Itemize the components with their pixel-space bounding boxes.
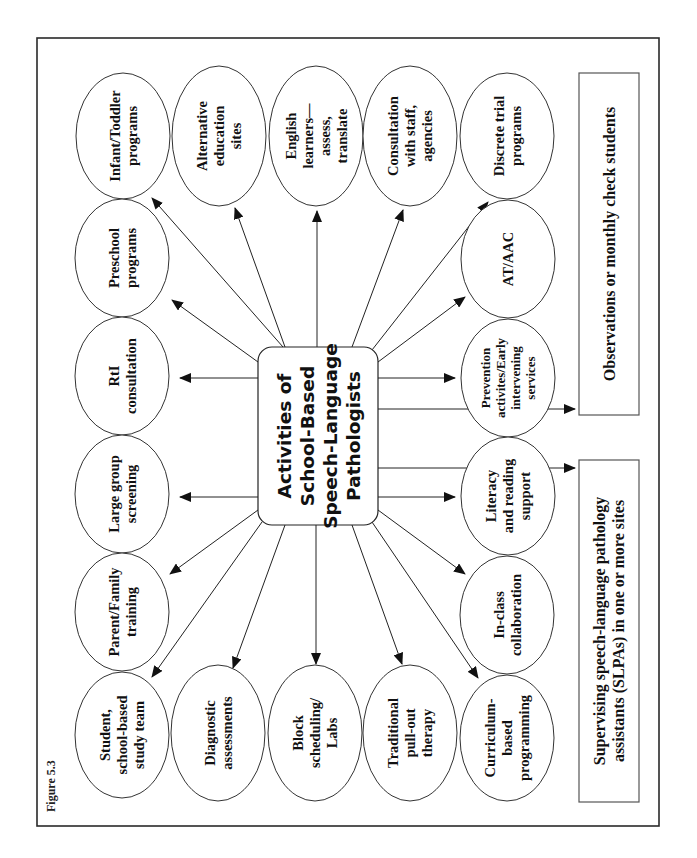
node-text: study team <box>131 701 147 769</box>
node-text: English <box>283 113 299 160</box>
node-alternative-education: Alternative education sites <box>172 66 266 206</box>
arrow-at-aac <box>378 297 465 362</box>
node-text: activites/Early <box>493 337 508 418</box>
center-line-3: Speech-Language <box>320 343 341 529</box>
node-text: Traditional <box>385 698 401 768</box>
node-text: services <box>523 356 538 399</box>
observations-box: Observations or monthly check students <box>579 73 639 415</box>
node-text: assessments <box>219 696 235 770</box>
node-text: based <box>499 720 515 755</box>
node-diagnostic: Diagnostic assessments <box>171 665 265 801</box>
node-preschool: Preschool programs <box>75 199 169 317</box>
center-line-4: Pathologists <box>343 371 364 501</box>
node-text: Curriculum- <box>482 698 498 777</box>
figure-label: Figure 5.3 <box>44 760 58 812</box>
node-text: scheduling/ <box>307 697 323 768</box>
arrow-in-class <box>378 510 465 574</box>
node-text: and reading <box>500 458 516 533</box>
node-text: collaboration <box>508 574 524 656</box>
node-block-scheduling: Block scheduling/ Labs <box>268 665 362 801</box>
supervising-text-line-1: Supervising speech-language pathology <box>591 497 609 765</box>
node-consultation-staff: Consultation with staff, agencies <box>363 66 457 206</box>
node-english-learners: English learners— assess, translate <box>269 66 363 206</box>
node-text: programming <box>516 694 532 781</box>
node-rti: RtI consultation <box>75 317 169 435</box>
node-text: Labs <box>324 717 340 748</box>
node-text: RtI <box>106 365 122 386</box>
node-parent-family: Parent/Family training <box>75 553 169 671</box>
node-text: Student, <box>97 709 113 761</box>
node-text: agencies <box>419 110 435 162</box>
node-text: Large group <box>106 455 122 532</box>
node-text: Consultation <box>385 96 401 176</box>
node-text: Block <box>290 714 306 750</box>
node-text: Discrete trial <box>491 96 507 177</box>
node-text: learners— <box>300 103 316 169</box>
node-text: training <box>123 586 139 637</box>
arrow-diagnostic <box>233 525 285 668</box>
node-text: therapy <box>419 708 435 757</box>
node-at-aac: AT/AAC <box>461 200 555 318</box>
observations-text: Observations or monthly check students <box>601 107 619 381</box>
arrow-traditional-pullout <box>352 525 402 664</box>
node-large-group: Large group screening <box>75 435 169 553</box>
node-text: assess, <box>317 116 333 156</box>
arrow-alternative-education <box>235 208 285 347</box>
node-prevention: Prevention activites/Early intervening s… <box>461 319 555 437</box>
node-traditional-pullout: Traditional pull-out therapy <box>363 665 457 801</box>
node-text: AT/AAC <box>500 232 516 287</box>
supervising-box: Supervising speech-language pathology as… <box>579 460 639 802</box>
node-text: Alternative <box>194 100 210 171</box>
node-literacy: Literacy and reading support <box>461 437 555 555</box>
node-text: In-class <box>491 591 507 639</box>
center-line-2: School-Based <box>297 366 318 506</box>
arrow-consultation <box>352 210 403 347</box>
node-text: screening <box>123 464 139 523</box>
node-text: education <box>211 106 227 166</box>
node-in-class: In-class collaboration <box>460 556 554 674</box>
arrow-preschool <box>172 300 258 362</box>
node-text: translate <box>334 108 350 163</box>
supervising-text-line-2: assistants (SLPAs) in one or more sites <box>610 500 628 762</box>
node-text: pull-out <box>402 708 418 757</box>
node-student-team: Student, school-based study team <box>75 672 169 798</box>
node-text: programs <box>508 106 524 167</box>
node-text: support <box>517 472 533 521</box>
node-text: Prevention <box>478 347 493 408</box>
center-line-1: Activities of <box>274 373 295 499</box>
node-text: programs <box>123 228 139 289</box>
center-node: Activities of School-Based Speech-Langua… <box>258 343 378 529</box>
node-infant-toddler: Infant/Toddler programs <box>76 73 170 199</box>
node-text: with staff, <box>402 105 418 167</box>
node-text: Literacy <box>483 469 499 522</box>
node-text: programs <box>124 106 140 167</box>
node-discrete-trial: Discrete trial programs <box>460 73 554 199</box>
arrow-parent-family <box>170 510 258 574</box>
node-curriculum-based: Curriculum- based programming <box>460 675 554 801</box>
node-text: Diagnostic <box>202 700 218 766</box>
arrow-infant-toddler <box>152 198 283 347</box>
activities-diagram: Figure 5.3 Activities of School-Based <box>0 0 697 858</box>
node-text: intervening <box>508 346 523 410</box>
node-text: school-based <box>114 696 130 775</box>
node-text: Preschool <box>106 228 122 288</box>
node-text: consultation <box>123 338 139 414</box>
node-text: Parent/Family <box>106 567 122 657</box>
node-text: Infant/Toddler <box>107 90 123 182</box>
node-text: sites <box>228 122 244 149</box>
